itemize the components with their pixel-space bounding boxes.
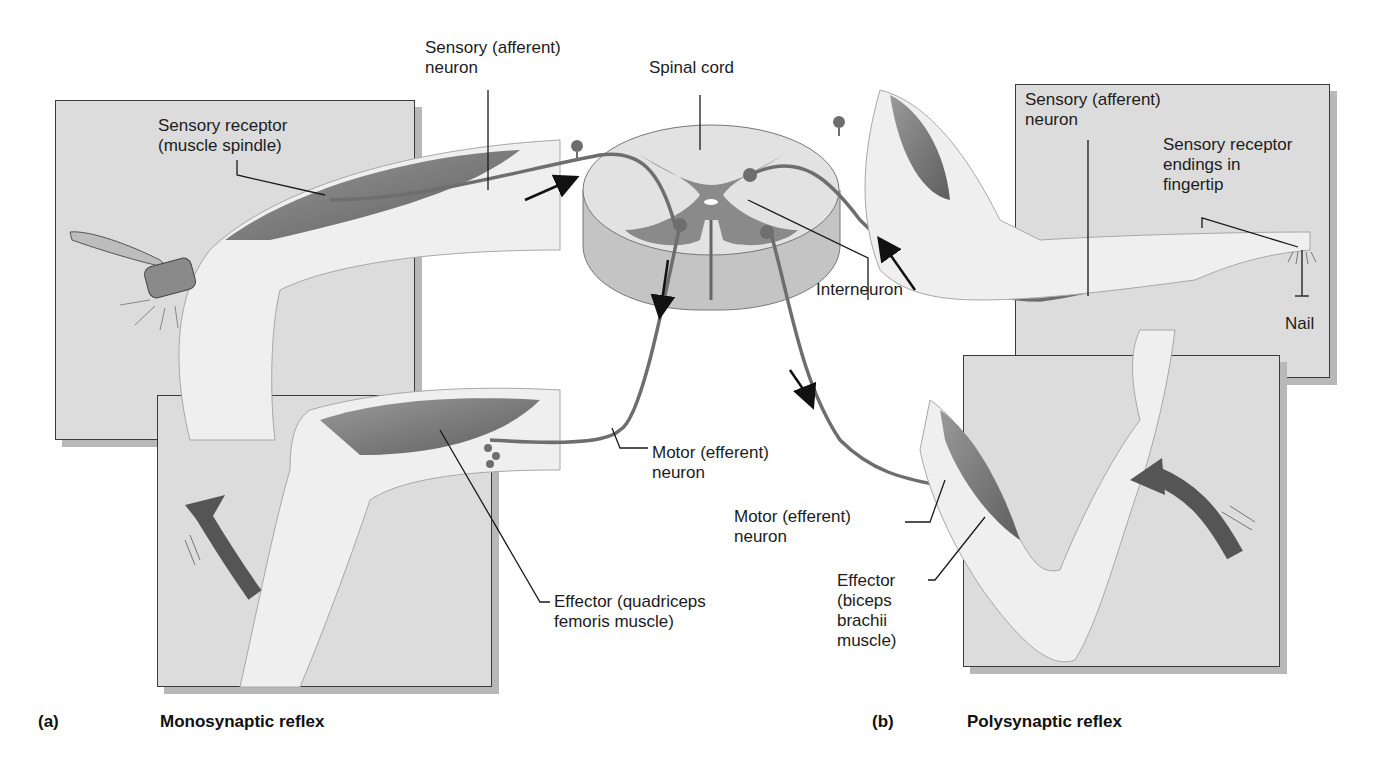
caption-title-b: Polysynaptic reflex [967,712,1122,732]
caption-letter-b: (b) [872,712,894,732]
label-nail: Nail [1285,314,1314,334]
label-sensory-neuron-a: Sensory (afferent) neuron [425,38,561,78]
withdraw-motion-arrow [1155,475,1235,555]
label-spinal-cord: Spinal cord [649,58,734,78]
extended-leg [240,388,560,687]
label-interneuron: Interneuron [816,280,903,300]
label-sensory-receptor-a: Sensory receptor (muscle spindle) [158,116,287,156]
reflex-hammer-icon [70,232,197,330]
nail-icon [1288,250,1316,296]
flexed-arm [920,330,1175,662]
caption-title-a: Monosynaptic reflex [160,712,324,732]
spinal-cord-section [583,125,840,310]
label-sensory-receptor-b: Sensory receptor endings in fingertip [1163,135,1292,195]
label-motor-neuron-b: Motor (efferent) neuron [734,507,851,547]
label-effector-b: Effector (biceps brachii muscle) [837,571,897,651]
label-motor-neuron-a: Motor (efferent) neuron [652,443,769,483]
label-sensory-neuron-b: Sensory (afferent) neuron [1025,90,1161,130]
label-effector-a: Effector (quadriceps femoris muscle) [554,592,706,632]
caption-letter-a: (a) [38,712,59,732]
